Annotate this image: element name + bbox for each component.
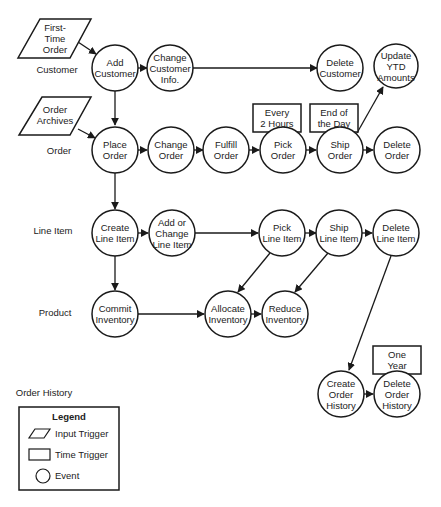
svg-text:Order: Order [385,389,409,400]
svg-text:Customer: Customer [319,68,360,79]
event-delete-order: Delete Order [374,127,420,173]
lane-label-product: Product [39,307,72,318]
svg-text:Inventory: Inventory [265,314,304,325]
svg-text:Change: Change [155,228,188,239]
event-delete-order-history: Delete Order History [374,371,420,417]
svg-text:Info.: Info. [161,74,180,85]
svg-text:Delete: Delete [382,222,409,233]
event-add-change-line-item: Add or Change Line Item [149,210,195,256]
svg-text:Line Item: Line Item [262,233,301,244]
legend: Legend Input Trigger Time Trigger Event [19,407,119,490]
svg-text:Line Item: Line Item [376,233,415,244]
svg-text:Add or: Add or [158,217,186,228]
input-trigger-order-archives: Order Archives [19,97,91,135]
svg-text:End of: End of [320,107,348,118]
event-commit-inventory: Commit Inventory [92,291,138,337]
svg-text:Order: Order [43,44,67,55]
svg-text:Order: Order [271,150,295,161]
lane-label-order-history: Order History [16,387,73,398]
event-ship-line-item: Ship Line Item [316,210,362,256]
svg-text:Change: Change [154,139,187,150]
svg-text:Delete: Delete [326,57,353,68]
event-ship-order: Ship Order [317,127,363,173]
input-trigger-first-time-order: First- Time Order [18,19,91,58]
event-delete-line-item: Delete Line Item [373,210,419,256]
svg-text:Fulfill: Fulfill [215,139,237,150]
svg-text:Reduce: Reduce [269,303,302,314]
event-pick-line-item: Pick Line Item [259,210,305,256]
svg-text:History: History [382,400,412,411]
event-reduce-inventory: Reduce Inventory [262,291,308,337]
event-delete-customer: Delete Customer [317,45,363,91]
svg-text:Add: Add [107,57,124,68]
svg-text:Inventory: Inventory [208,314,247,325]
svg-text:Ship: Ship [330,139,349,150]
svg-text:Customer: Customer [149,63,190,74]
svg-text:YTD: YTD [387,61,406,72]
svg-text:Ship: Ship [329,222,348,233]
svg-text:Order: Order [159,150,183,161]
svg-text:First-: First- [44,22,66,33]
svg-text:Create: Create [327,378,356,389]
svg-text:Every: Every [265,107,290,118]
legend-label-time-trigger: Time Trigger [55,449,108,460]
time-trigger-one-year: One Year [373,346,421,374]
event-allocate-inventory: Allocate Inventory [205,291,251,337]
event-fulfill-order: Fulfill Order [203,127,249,173]
event-place-order: Place Order [92,127,138,173]
svg-text:Order: Order [328,150,352,161]
svg-text:Order: Order [103,150,127,161]
event-change-order: Change Order [148,127,194,173]
event-add-customer: Add Customer [92,45,138,91]
svg-text:Allocate: Allocate [211,303,245,314]
event-change-customer-info: Change Customer Info. [147,45,193,91]
svg-text:Commit: Commit [99,303,132,314]
svg-text:Pick: Pick [274,139,292,150]
svg-text:Pick: Pick [273,222,291,233]
svg-text:Time: Time [45,33,66,44]
legend-title: Legend [52,411,86,422]
legend-label-input-trigger: Input Trigger [55,428,108,439]
legend-label-event: Event [55,470,80,481]
svg-text:Order: Order [329,389,353,400]
svg-text:Archives: Archives [37,115,74,126]
event-create-order-history: Create Order History [318,371,364,417]
svg-text:Delete: Delete [383,378,410,389]
svg-text:Order: Order [385,150,409,161]
svg-text:Year: Year [387,360,406,371]
svg-text:One: One [388,349,406,360]
svg-text:Change: Change [153,52,186,63]
svg-text:Place: Place [103,139,127,150]
event-pick-order: Pick Order [260,127,306,173]
svg-text:Order: Order [43,104,67,115]
svg-text:Order: Order [214,150,238,161]
lane-label-customer: Customer [36,64,77,75]
svg-text:Amounts: Amounts [377,72,415,83]
svg-text:Line Item: Line Item [319,233,358,244]
svg-text:Create: Create [101,222,130,233]
svg-text:Update: Update [381,50,412,61]
event-diagram: Customer Order Line Item Product Order H… [0,0,441,507]
lane-label-order: Order [47,145,71,156]
svg-text:Customer: Customer [94,68,135,79]
event-create-line-item: Create Line Item [92,210,138,256]
lane-label-line-item: Line Item [33,225,72,236]
svg-text:Delete: Delete [383,139,410,150]
svg-text:History: History [326,400,356,411]
event-update-ytd-amounts: Update YTD Amounts [374,44,418,88]
svg-text:Inventory: Inventory [95,314,134,325]
svg-text:Line Item: Line Item [152,239,191,250]
svg-text:Line Item: Line Item [95,233,134,244]
